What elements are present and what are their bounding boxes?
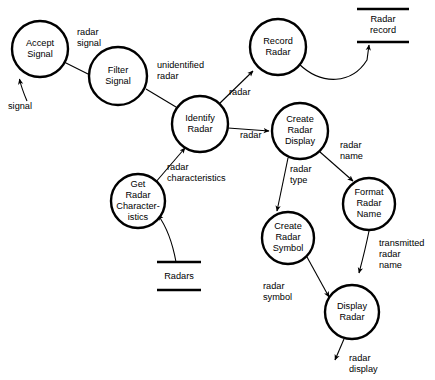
datastore-radar-record[interactable]: Radar record [357,9,409,42]
process-label-line: Record [263,36,293,46]
process-create-radar-symbol[interactable]: Create Radar Symbol [262,212,314,264]
process-label-line: Radar [287,125,312,135]
flow-label-line: radar [340,140,361,150]
flow-label-line: name [340,151,363,161]
process-accept-signal[interactable]: Accept Signal [12,21,68,77]
flow-radar-type [277,158,288,211]
process-label-line: Display [285,136,316,146]
flow-label-line: radar [240,130,261,140]
process-create-radar-display[interactable]: Create Radar Display [272,103,328,159]
process-label-line: Character- [116,201,159,211]
flow-label-line: radar [77,27,98,37]
process-label-line: Accept [26,38,55,48]
process-label-line: Radar [187,124,212,134]
process-label-line: Create [286,114,314,124]
flow-label-line: radar [349,353,370,363]
process-label-line: Filter [108,65,128,75]
flow-label-line: symbol [263,292,292,302]
flow-label-radar-signal: radar signal [77,27,101,48]
flow-label-radar-characteristics: radar characteristics [167,162,226,183]
process-label-line: istics [128,212,149,222]
flow-transmitted-radar-name [359,231,369,273]
datastore-label-line: Radars [164,271,194,281]
flow-label-radar-display: radar display [349,353,378,374]
process-label-line: Get [131,179,146,189]
flow-label-line: display [349,364,378,374]
process-label-line: Radar [125,190,150,200]
process-format-radar-name[interactable]: Format Radar Name [343,178,395,230]
flow-label-line: transmitted [379,238,424,248]
flow-label-radar-type: radar type [290,164,311,185]
flow-label-line: name [379,260,402,270]
process-label-line: Radar [339,312,364,322]
process-label-line: Symbol [273,243,304,253]
process-label-line: Radar [265,47,290,57]
flow-label-radar-to-display: radar [240,130,261,140]
flow-label-line: radar [290,164,311,174]
process-record-radar[interactable]: Record Radar [250,19,306,75]
flow-signal-in [20,79,28,101]
datastore-label-line: Radar [370,14,395,24]
process-label-line: Signal [27,49,53,59]
process-label-line: Radar [356,198,381,208]
flow-label-line: type [290,175,307,185]
process-label-line: Signal [105,76,131,86]
flow-label-radar-to-record: radar [229,87,250,97]
flow-label-radar-symbol: radar symbol [263,281,292,302]
process-get-radar-characteristics[interactable]: Get Radar Character- istics [111,174,165,228]
datastore-radars[interactable]: Radars [157,262,201,290]
flow-radar-record-write [299,45,369,79]
flow-label-line: radar [229,87,250,97]
process-label-line: Format [354,187,384,197]
flow-label-line: radar [157,71,178,81]
flow-label-line: radar [167,162,188,172]
flow-radars-read [158,215,176,262]
process-filter-signal[interactable]: Filter Signal [89,47,147,105]
flow-label-line: radar [379,249,400,259]
flow-label-line: signal [8,101,32,111]
process-label-line: Identify [185,113,215,123]
flow-radar-display-out [335,339,344,360]
flow-label-radar-name: radar name [340,140,363,161]
flow-label-line: signal [77,38,101,48]
data-flow-diagram: Accept Signal Filter Signal Identify Rad… [0,0,435,380]
datastore-label-line: record [370,25,396,35]
flow-label-line: unidentified [157,60,204,70]
process-label-line: Display [337,301,368,311]
flow-label-line: radar [263,281,284,291]
flow-label-unidentified-radar: unidentified radar [157,60,204,81]
flow-label-line: characteristics [167,173,226,183]
flow-radar-symbol [307,257,329,297]
diagram-canvas: Accept Signal Filter Signal Identify Rad… [0,0,435,380]
process-identify-radar[interactable]: Identify Radar [172,96,228,152]
process-display-radar[interactable]: Display Radar [325,285,379,339]
process-label-line: Radar [275,232,300,242]
process-label-line: Create [274,221,302,231]
flow-label-transmitted-radar-name: transmitted radar name [379,238,424,270]
flow-unidentified-radar [146,89,181,110]
process-label-line: Name [357,209,382,219]
flow-label-signal: signal [8,101,32,111]
